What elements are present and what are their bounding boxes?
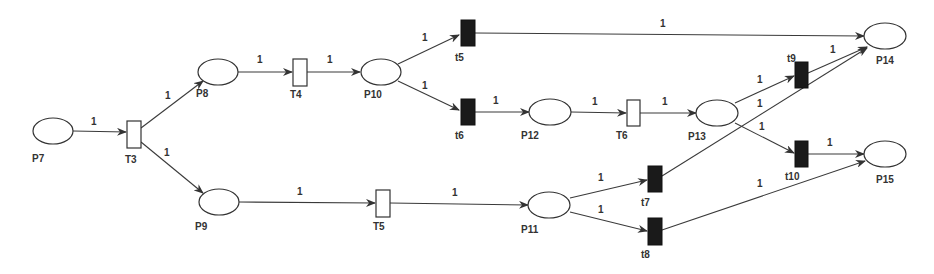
petri-net-diagram: 1 1 1 1 1 1 1 1 1 1 1 1 1 1 1 1 1 1 1 1 …	[0, 0, 934, 274]
weight-T3-P8: 1	[165, 90, 171, 101]
label-T5: T5	[373, 221, 385, 232]
weight-P10-t6: 1	[422, 80, 428, 91]
arc-T3-P8	[141, 81, 203, 128]
transition-T3[interactable]	[127, 121, 141, 148]
label-t8: t8	[641, 249, 650, 260]
weight-t10-P15: 1	[827, 137, 833, 148]
label-P7: P7	[32, 153, 45, 164]
arc-P7-T3	[73, 131, 126, 132]
transition-t9[interactable]	[795, 62, 808, 88]
place-P7[interactable]	[33, 118, 73, 144]
node-labels: P7 P8 P9 P10 P11 P12 P13 P14 P15 T3 T4 T…	[32, 52, 894, 260]
arc-P10-t5	[398, 35, 459, 64]
arc-T3-P9	[141, 142, 203, 193]
transition-T4[interactable]	[293, 59, 307, 86]
label-P9: P9	[195, 221, 208, 232]
label-P12: P12	[521, 130, 539, 141]
weight-t9-P14: 1	[830, 44, 836, 55]
label-P11: P11	[521, 224, 539, 235]
place-P13[interactable]	[696, 100, 738, 126]
place-P11[interactable]	[528, 192, 570, 218]
arc-t8-P15	[662, 161, 865, 230]
arc-P11-t7	[570, 180, 647, 198]
transition-t6[interactable]	[461, 99, 475, 125]
weight-T5-P11: 1	[452, 187, 458, 198]
weight-P8-T4: 1	[257, 54, 263, 65]
label-P8: P8	[196, 88, 209, 99]
label-T4: T4	[290, 89, 302, 100]
place-P15[interactable]	[864, 141, 906, 167]
label-t10: t10	[785, 171, 800, 182]
weight-P9-T5: 1	[297, 186, 303, 197]
label-T6: T6	[616, 130, 628, 141]
weight-T4-P10: 1	[327, 54, 333, 65]
place-P9[interactable]	[199, 189, 239, 215]
weight-t6-P12: 1	[493, 95, 499, 106]
arcs	[73, 33, 867, 231]
transition-T6[interactable]	[627, 100, 640, 126]
place-P8[interactable]	[198, 59, 238, 85]
weight-P11-t7: 1	[598, 172, 604, 183]
label-t6: t6	[455, 130, 464, 141]
label-P13: P13	[688, 131, 706, 142]
weight-t7-P14: 1	[757, 98, 763, 109]
arc-T5-P11	[390, 203, 528, 205]
weight-P7-T3: 1	[91, 116, 97, 127]
weight-P12-T6: 1	[592, 96, 598, 107]
weight-P11-t8: 1	[598, 204, 604, 215]
transition-t7[interactable]	[648, 166, 662, 192]
weight-t8-P15: 1	[757, 178, 763, 189]
arc-P9-T5	[239, 202, 375, 203]
label-P15: P15	[876, 174, 894, 185]
place-P14[interactable]	[864, 23, 906, 49]
transition-t5[interactable]	[461, 20, 475, 46]
arc-t7-P14	[662, 48, 867, 176]
arc-t9-P14	[808, 47, 867, 73]
weight-P13-t9: 1	[757, 74, 763, 85]
weight-t5-P14: 1	[660, 18, 666, 29]
transition-T5[interactable]	[376, 190, 390, 217]
place-P12[interactable]	[529, 99, 571, 125]
arc-P10-t6	[398, 81, 459, 110]
arc-t5-P14	[475, 33, 864, 36]
label-t7: t7	[641, 197, 650, 208]
weight-P13-t10: 1	[759, 121, 765, 132]
place-P10[interactable]	[361, 59, 401, 85]
label-t9: t9	[787, 53, 796, 64]
weight-T3-P9: 1	[164, 147, 170, 158]
label-t5: t5	[455, 52, 464, 63]
weight-T6-P13: 1	[662, 96, 668, 107]
label-P10: P10	[364, 89, 382, 100]
transition-t10[interactable]	[795, 141, 808, 167]
label-T3: T3	[125, 154, 137, 165]
weight-P10-t5: 1	[422, 32, 428, 43]
arc-P12-T6	[571, 112, 626, 113]
transition-t8[interactable]	[648, 218, 662, 245]
arc-P11-t8	[570, 212, 647, 231]
label-P14: P14	[876, 55, 894, 66]
